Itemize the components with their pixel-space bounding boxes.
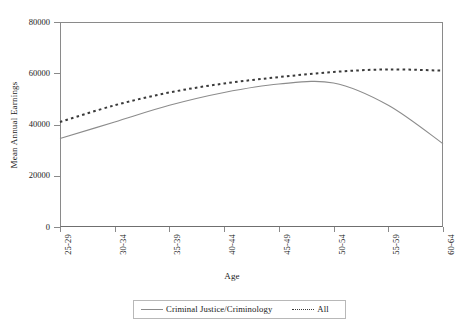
series-line-criminal-justice	[60, 81, 443, 143]
earnings-by-age-line-chart: 020000400006000080000 25-2930-3435-3940-…	[0, 0, 464, 336]
x-axis-title: Age	[0, 271, 464, 281]
legend: Criminal Justice/CriminologyAll	[133, 300, 346, 319]
series-lines	[0, 0, 464, 336]
legend-label: Criminal Justice/Criminology	[166, 305, 272, 314]
series-line-all	[60, 69, 443, 122]
y-axis-title: Mean Annual Earnings	[9, 82, 19, 169]
legend-swatch-dotted-icon	[292, 309, 314, 310]
legend-item[interactable]: All	[292, 301, 328, 318]
legend-swatch-solid-icon	[141, 309, 163, 310]
legend-item[interactable]: Criminal Justice/Criminology	[141, 301, 272, 318]
legend-label: All	[317, 305, 328, 314]
